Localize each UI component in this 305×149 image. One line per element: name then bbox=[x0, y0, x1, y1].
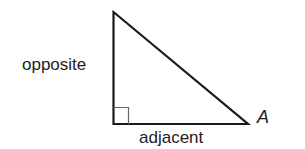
adjacent-label: adjacent bbox=[139, 129, 203, 146]
angle-a-label: A bbox=[257, 108, 269, 126]
right-angle-marker bbox=[114, 108, 129, 125]
opposite-label: opposite bbox=[22, 56, 86, 73]
right-triangle bbox=[114, 12, 249, 124]
